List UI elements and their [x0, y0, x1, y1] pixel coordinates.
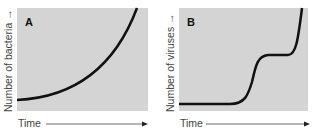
arrowhead-icon [304, 122, 310, 127]
virus-growth-curve [179, 8, 302, 104]
curves-and-arrows [0, 0, 312, 133]
arrowhead-icon [142, 122, 148, 127]
bacteria-growth-curve [17, 8, 137, 100]
